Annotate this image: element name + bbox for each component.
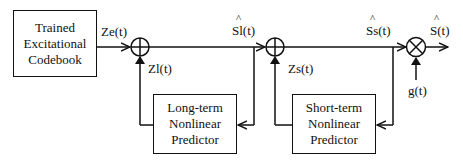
short-term-predictor-block: Short-term Nonlinear Predictor [292,94,376,154]
label-zs: Zs(t) [288,62,313,76]
long-term-line-1: Long-term [167,100,223,116]
long-term-line-2: Nonlinear [169,116,221,132]
hat-ss: ^ [370,13,375,23]
label-ze: Ze(t) [101,25,127,39]
hat-sl: ^ [236,13,241,23]
label-ss-hat: Ss(t) [366,24,391,38]
codebook-line-3: Codebook [28,52,81,68]
codebook-line-2: Excitational [24,36,87,52]
codebook-line-1: Trained [35,20,75,36]
label-s-hat: S(t) [430,24,450,38]
short-term-line-1: Short-term [306,100,362,116]
label-g: g(t) [408,84,427,98]
long-term-line-3: Predictor [171,132,219,148]
trained-excitational-codebook-block: Trained Excitational Codebook [13,10,97,77]
short-term-line-3: Predictor [310,132,358,148]
hat-s: ^ [434,13,439,23]
label-zl: Zl(t) [148,62,172,76]
short-term-line-2: Nonlinear [308,116,360,132]
label-sl-hat: Sl(t) [232,24,255,38]
long-term-predictor-block: Long-term Nonlinear Predictor [153,94,237,154]
